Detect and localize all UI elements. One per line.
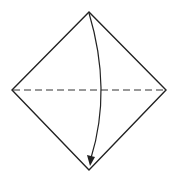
paper-diamond [12,12,166,170]
diagram-svg [0,0,178,178]
origami-diagram [0,0,178,178]
